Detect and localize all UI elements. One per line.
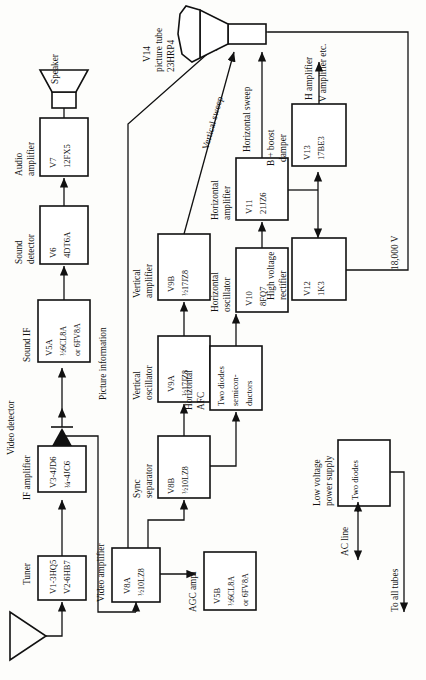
tuner-line1: V1-3HQ5 [48, 560, 58, 594]
damper-line2: 17BE3 [316, 136, 326, 160]
caption-lvps-l1: Low voltage [312, 459, 322, 506]
caption-hosc-l1: Horizontal [210, 272, 220, 312]
soundif-line2: ½6CL8A [59, 326, 68, 356]
caption-vamp-l1: Vertical [132, 269, 142, 298]
hafc-line1: Two diodes [216, 366, 226, 406]
crt-label-3: 23HRP4 [166, 40, 176, 72]
hvrect-line2: 1K3 [316, 281, 326, 296]
syncsep-line1: V8B [166, 477, 176, 494]
agcamp-line3: or 6FV8A [241, 573, 250, 606]
caption-hvrect-l1: High voltage [266, 252, 276, 300]
hosc-line1: V10 [244, 291, 254, 306]
caption-agcamp: AGC ampl [188, 571, 198, 612]
ifamp-line1: V3-4JD6 [48, 456, 58, 488]
caption-hamp-l2: amplifier [222, 185, 232, 220]
caption-hafc-l1: Horizontal [184, 370, 194, 410]
videoamp-line1: V8A [122, 576, 132, 594]
caption-vosc-l2: oscillator [144, 365, 154, 400]
caption-sounddet-l1: Sound [14, 240, 24, 264]
label-horizontal-sweep: Horizontal sweep [242, 86, 252, 152]
label-vertical-sweep: Vertical sweep [200, 95, 225, 150]
label-ac-line: AC line [340, 527, 350, 556]
caption-tuner: Tuner [22, 562, 32, 585]
caption-syncsep-l1: Sync [132, 479, 142, 498]
caption-vosc-l1: Vertical [132, 371, 142, 400]
vamp-line1: V9B [166, 275, 176, 292]
hamp-line2: 21JZ6 [258, 192, 268, 214]
damper-line1: V13 [302, 145, 312, 160]
label-h-amplifier: H amplifier [304, 56, 314, 100]
hamp-line1: V11 [244, 200, 254, 214]
soundif-line3: or 6FV8A [73, 323, 82, 356]
section-video-detector: Video detector [6, 400, 16, 455]
caption-videoamp: Video amplifier [96, 543, 106, 602]
sounddet-line2: 4DT6A [62, 231, 72, 258]
audioamp-line1: V7 [48, 157, 58, 168]
caption-audioamp-l2: amplifier [26, 141, 36, 176]
label-to-all-tubes: To all tubes [390, 568, 400, 612]
hafc-line2: semicon- [230, 374, 240, 406]
ifamp-line2: ¼-4JC6 [62, 460, 72, 488]
caption-hafc-l2: AFC [196, 392, 206, 410]
caption-lvps-l2: power supply [324, 455, 334, 506]
caption-damper-l2: damper [278, 133, 288, 162]
lvps-line1: Two diodes [350, 460, 360, 500]
syncsep-line2: ½10LZ8 [181, 466, 190, 494]
tuner-line2: V2-6HB7 [62, 559, 72, 594]
soundif-line1: V5A [44, 338, 54, 356]
vosc-line1: V9A [166, 374, 176, 392]
hafc-line3: ductors [244, 380, 254, 406]
agcamp-line1: V5B [212, 587, 222, 604]
agcamp-line2: ½6CL8A [227, 576, 236, 606]
caption-vamp-l2: amplifier [144, 263, 154, 298]
label-speaker: Speaker [50, 53, 60, 84]
caption-hosc-l2: oscillator [222, 277, 232, 312]
caption-audioamp-l1: Audio [14, 152, 24, 176]
vamp-line2: ½17JZ8 [181, 270, 190, 296]
caption-ifamp: IF amplifier [22, 454, 32, 500]
caption-damper-l1: B + boost [266, 129, 276, 166]
diagram-canvas: Video detector Picture information Tuner… [0, 0, 426, 680]
videoamp-line2: ½10LZ8 [137, 568, 146, 596]
caption-soundif: Sound IF [22, 328, 32, 362]
crt-label-1: V14 [142, 46, 152, 62]
audioamp-line2: 12FX5 [62, 144, 72, 168]
caption-sounddet-l2: detector [26, 233, 36, 264]
label-high-voltage: 18,000 V [390, 235, 400, 270]
diagram-text-layer: Video detector Picture information Tuner… [0, 0, 426, 680]
hvrect-line1: V12 [302, 281, 312, 296]
label-v-amplifier: V amplifier etc. [318, 44, 328, 102]
crt-label-2: picture tube [154, 28, 164, 72]
caption-hamp-l1: Horizontal [210, 180, 220, 220]
sounddet-line1: V6 [48, 247, 58, 258]
section-picture-information: Picture information [98, 327, 108, 400]
caption-hvrect-l2: rectifier [278, 270, 288, 300]
caption-syncsep-l2: separator [144, 463, 154, 498]
